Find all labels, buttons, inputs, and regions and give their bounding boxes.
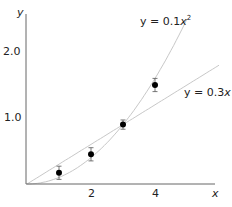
curve-label-quadratic-prefix: y = 0.1 xyxy=(140,15,180,28)
x-axis-label: x xyxy=(212,187,219,200)
data-point xyxy=(152,78,158,91)
curve-label-quadratic: y = 0.1x2 xyxy=(140,14,191,28)
fitted-curves xyxy=(27,19,219,184)
quadratic-curve xyxy=(27,19,187,184)
x-tick-label-4: 4 xyxy=(152,187,159,200)
y-axis-label: y xyxy=(17,6,24,19)
x-tick-label-2: 2 xyxy=(88,187,95,200)
data-point xyxy=(56,166,62,179)
y-tick-label-1: 1.0 xyxy=(4,111,22,124)
data-points xyxy=(56,78,158,179)
curve-label-linear-var: x xyxy=(224,86,231,99)
curve-label-linear-prefix: y = 0.3 xyxy=(184,86,224,99)
curve-label-linear: y = 0.3x xyxy=(184,86,231,99)
y-tick-label-2: 2.0 xyxy=(3,45,21,58)
curve-label-quadratic-exp: 2 xyxy=(187,14,191,22)
chart-canvas xyxy=(0,0,232,207)
